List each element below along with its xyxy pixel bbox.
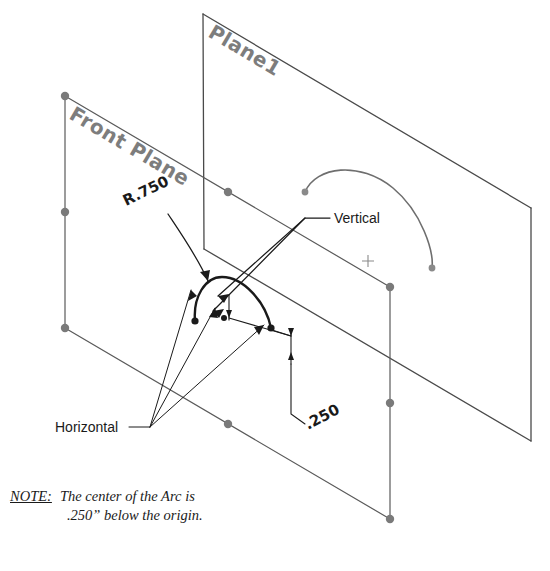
dim-arrowhead-bottom <box>288 352 294 360</box>
vertical-leader-line-1 <box>218 218 330 296</box>
plane1-bottom-edge <box>204 249 531 441</box>
front-plane-handles[interactable] <box>61 92 394 523</box>
handle-dot-bottom-mid[interactable] <box>224 420 232 428</box>
vertical-callout-leaders <box>213 218 330 318</box>
sketch-arc-path <box>195 277 271 328</box>
horizontal-leader-line-2 <box>150 308 215 427</box>
note-line-1: The center of the Arc is <box>60 488 195 504</box>
front-plane-label: Front Plane <box>65 102 194 191</box>
offset-dim-label: .250 <box>301 400 342 433</box>
reference-arc-end-point[interactable] <box>429 265 436 272</box>
handle-dot-top-right[interactable] <box>386 283 394 291</box>
handle-dot-bottom-right[interactable] <box>386 515 394 523</box>
front-plane-outline <box>65 96 390 519</box>
note-prefix: NOTE: <box>10 488 52 504</box>
origin-cross-icon <box>362 255 374 267</box>
origin-marker <box>362 255 374 267</box>
horizontal-callout-leaders <box>129 290 264 427</box>
vertical-label: Vertical <box>334 210 380 226</box>
sketch-arc-group <box>191 277 274 332</box>
radius-leader-arrowhead <box>200 270 210 281</box>
handle-dot-bottom-left[interactable] <box>61 324 69 332</box>
reference-arc-start-point[interactable] <box>302 189 309 196</box>
plane1-label: Plane1 <box>204 20 285 81</box>
handle-dot-top-left[interactable] <box>61 92 69 100</box>
horizontal-label: Horizontal <box>55 419 118 435</box>
dim-tick-arrowhead <box>226 310 232 318</box>
sketch-arc-start-point[interactable] <box>191 317 198 324</box>
radius-leader-line <box>168 214 208 281</box>
plane1-outline <box>203 14 531 441</box>
dim-text-leader <box>291 364 305 424</box>
sketch-arc-center-point[interactable] <box>221 315 227 321</box>
handle-dot-mid-right[interactable] <box>386 399 394 407</box>
dim-extension-line-lower <box>272 330 291 336</box>
handle-dot-mid-left[interactable] <box>61 208 69 216</box>
cad-drawing-canvas: R.750 Vertical Horizontal .250 Plane1 <box>0 0 550 571</box>
horizontal-leader-line-1 <box>150 290 191 427</box>
note-block: NOTE: The center of the Arc is .250” bel… <box>10 487 310 525</box>
plane1-left-edge <box>203 14 204 249</box>
note-line-2: .250” below the origin. <box>60 506 203 525</box>
vertical-leader-line-2 <box>213 218 305 311</box>
handle-dot-top-mid[interactable] <box>224 188 232 196</box>
